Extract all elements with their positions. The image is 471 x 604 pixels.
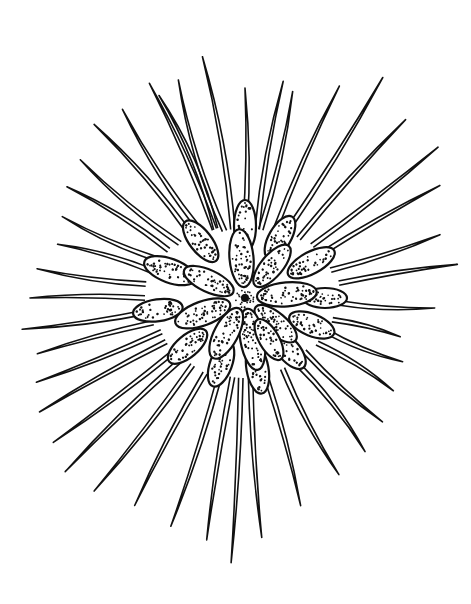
plant-rosette-illustration <box>0 0 471 604</box>
rosette-center <box>241 294 249 302</box>
illustration-canvas <box>0 0 471 604</box>
